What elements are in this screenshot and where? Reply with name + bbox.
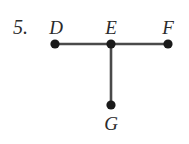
vertex-point-F [163, 39, 172, 48]
vertex-point-G [106, 100, 115, 109]
vertex-label-G: G [98, 114, 124, 133]
vertex-label-D: D [43, 18, 69, 37]
vertex-label-F: F [155, 18, 181, 37]
geometry-figure: 5. D E F G [0, 0, 189, 144]
vertex-label-E: E [98, 18, 124, 37]
vertex-point-D [50, 39, 59, 48]
vertex-point-E [106, 39, 115, 48]
